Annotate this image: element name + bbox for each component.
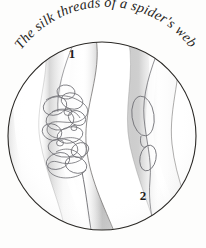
callout-label-2: 2 bbox=[140, 188, 147, 203]
callout-layer: 1 2 bbox=[0, 0, 206, 248]
spider-silk-figure: The silk threads of a spider's web bbox=[0, 0, 206, 248]
callout-label-1: 1 bbox=[69, 46, 76, 61]
